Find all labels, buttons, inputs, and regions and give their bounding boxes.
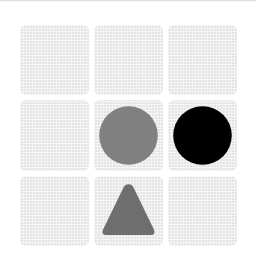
grid-cell-r1c3[interactable]	[168, 25, 237, 95]
grid-cell-r1c2[interactable]	[94, 25, 163, 95]
shape-slot-r3c2	[94, 176, 163, 246]
grid-cell-r1c1[interactable]	[20, 25, 89, 95]
shape-grid-board	[20, 25, 237, 246]
top-hairline-divider	[0, 0, 256, 2]
shape-slot-r2c2	[94, 100, 163, 170]
grid-cell-r3c2[interactable]	[94, 176, 163, 246]
circle-icon	[172, 105, 233, 166]
grid-cell-r3c1[interactable]	[20, 176, 89, 246]
triangle-icon	[100, 182, 157, 239]
grid-cell-r2c1[interactable]	[20, 100, 89, 170]
shape-slot-r2c3	[168, 100, 237, 170]
circle-icon	[98, 105, 159, 166]
grid-cell-r2c3[interactable]	[168, 100, 237, 170]
grid-cell-r2c2[interactable]	[94, 100, 163, 170]
grid-cell-r3c3[interactable]	[168, 176, 237, 246]
